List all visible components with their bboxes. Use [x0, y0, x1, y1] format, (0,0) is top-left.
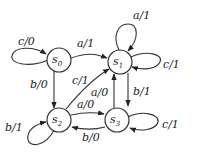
label-s2-s2: b/1	[5, 121, 23, 134]
state-s1: s1	[108, 50, 132, 74]
edge-s0-s1-a1	[71, 54, 107, 58]
state-diagram: c/0 a/1 b/0 a/1 c/1 b/1 b/1 c/1 a/0 a/0 …	[0, 0, 197, 161]
edge-s0-s0-c0	[12, 48, 48, 64]
edge-s3-s2-b0	[72, 127, 105, 129]
label-s0-s2: b/0	[30, 78, 48, 91]
state-s3: s3	[105, 108, 129, 132]
label-s1-s1-a: a/1	[133, 9, 150, 22]
edge-s1-s1-a1	[116, 24, 136, 51]
label-s2-s1: c/1	[72, 74, 89, 87]
edge-s2-s3-a0	[71, 113, 104, 115]
edge-s1-s1-c1	[131, 53, 161, 68]
label-s3-s2: b/0	[82, 131, 100, 144]
label-s1-s3: b/1	[133, 85, 151, 98]
label-s0-s0: c/0	[18, 35, 35, 48]
edge-s3-s3-c1	[128, 113, 158, 130]
label-s2-s3: a/0	[77, 98, 94, 111]
state-s0: s0	[47, 48, 71, 72]
label-s0-s1: a/1	[77, 37, 94, 50]
label-s3-s3: c/1	[162, 118, 179, 131]
label-s1-s1-c: c/1	[163, 58, 180, 71]
state-s2: s2	[47, 108, 71, 132]
